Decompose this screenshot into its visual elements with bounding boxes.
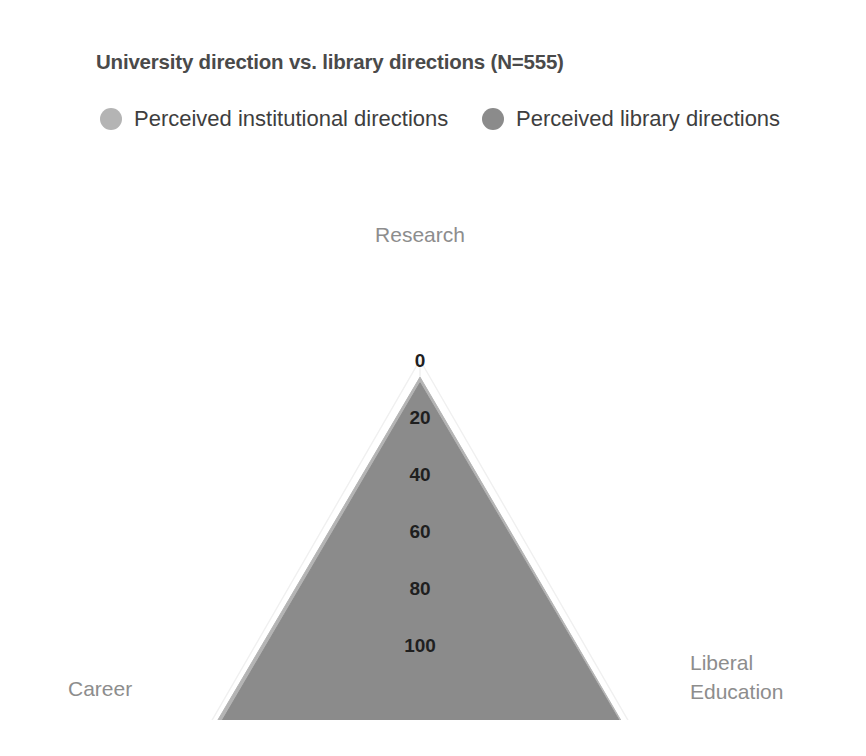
tick-label-0: 0	[415, 350, 426, 371]
tick-label-40: 40	[409, 464, 430, 485]
chart-legend: Perceived institutional directions Perce…	[100, 105, 820, 175]
radar-svg: 100 80 60 40 20 0 Research Career Libera…	[0, 200, 866, 720]
axis-label-career: Career	[68, 677, 132, 700]
radar-series-polygons	[181, 377, 657, 720]
chart-title: University direction vs. library directi…	[96, 50, 796, 75]
tick-label-60: 60	[409, 521, 430, 542]
axis-label-liberal-education-line1: Liberal	[690, 651, 753, 674]
axis-label-research: Research	[375, 223, 465, 246]
series-polygon	[188, 383, 655, 720]
legend-item-institutional[interactable]: Perceived institutional directions	[100, 105, 460, 133]
radar-plot-area: 100 80 60 40 20 0 Research Career Libera…	[0, 200, 866, 720]
tick-label-80: 80	[409, 578, 430, 599]
axis-label-liberal-education-line2: Education	[690, 680, 783, 703]
radar-chart-figure: University direction vs. library directi…	[0, 0, 866, 756]
tick-label-20: 20	[409, 407, 430, 428]
legend-swatch-icon	[482, 108, 504, 130]
legend-label-library: Perceived library directions	[516, 105, 780, 133]
legend-label-institutional: Perceived institutional directions	[134, 105, 448, 133]
tick-label-100: 100	[404, 635, 436, 656]
legend-item-library[interactable]: Perceived library directions	[482, 105, 812, 133]
legend-swatch-icon	[100, 108, 122, 130]
